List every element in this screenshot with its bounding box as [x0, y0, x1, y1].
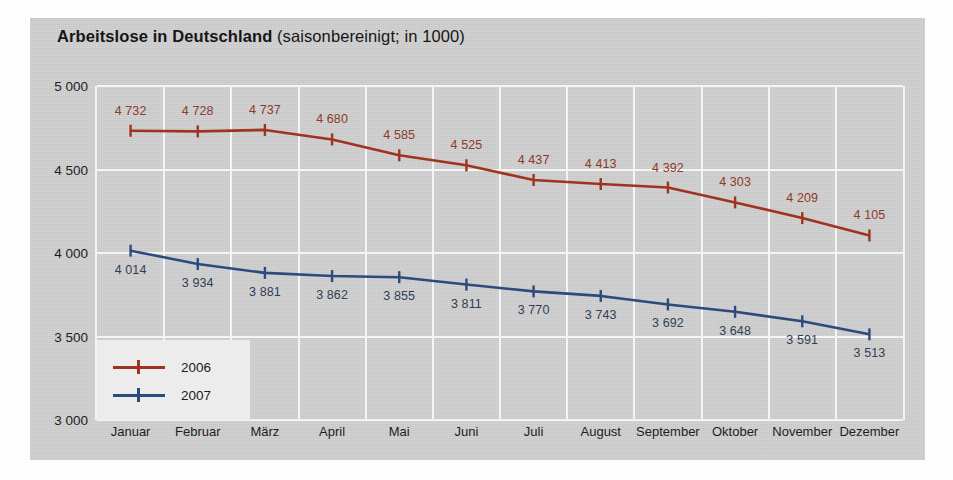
y-axis-tick-label: 5 000	[54, 79, 88, 94]
data-value-label: 4 680	[316, 112, 348, 126]
data-value-label: 3 855	[383, 289, 415, 303]
data-value-label: 4 105	[854, 208, 886, 222]
x-axis-tick-label: Mai	[389, 424, 410, 439]
legend-line-marker-icon	[113, 388, 165, 402]
data-value-label: 3 862	[316, 288, 348, 302]
data-value-label: 4 728	[182, 104, 214, 118]
data-value-label: 3 881	[249, 285, 281, 299]
chart-legend: 20062007	[97, 340, 250, 420]
x-axis-tick-label: November	[772, 424, 832, 439]
x-axis-tick-label: Februar	[175, 424, 221, 439]
data-value-label: 3 591	[786, 333, 818, 347]
data-value-label: 3 770	[518, 303, 550, 317]
data-value-label: 4 585	[383, 128, 415, 142]
data-value-label: 4 737	[249, 103, 281, 117]
data-value-label: 3 648	[719, 324, 751, 338]
data-value-label: 3 743	[585, 308, 617, 322]
x-axis-tick-label: April	[319, 424, 345, 439]
series-line-2007	[131, 251, 870, 335]
y-axis-tick-label: 4 500	[54, 162, 88, 177]
data-value-label: 4 303	[719, 175, 751, 189]
y-axis-tick-label: 3 500	[54, 329, 88, 344]
legend-item-2006[interactable]: 2006	[113, 358, 211, 376]
y-axis-labels: 3 0003 5004 0004 5005 000	[30, 86, 88, 420]
x-axis-tick-label: Dezember	[839, 424, 899, 439]
data-value-label: 4 525	[451, 138, 483, 152]
data-value-label: 4 392	[652, 161, 684, 175]
chart-title-bold: Arbeitslose in Deutschland	[57, 27, 272, 45]
y-axis-tick-label: 4 000	[54, 246, 88, 261]
x-axis-tick-label: Juli	[524, 424, 544, 439]
x-axis-tick-label: Oktober	[712, 424, 758, 439]
axis-right	[903, 86, 905, 420]
legend-line-marker-icon	[113, 360, 165, 374]
legend-label: 2006	[181, 360, 211, 375]
legend-item-2007[interactable]: 2007	[113, 386, 211, 404]
data-value-label: 4 014	[115, 263, 147, 277]
data-value-label: 3 811	[451, 297, 482, 311]
data-value-label: 3 934	[182, 276, 214, 290]
chart-title-subtitle: (saisonbereinigt; in 1000)	[277, 27, 465, 45]
x-axis-tick-label: März	[250, 424, 279, 439]
data-value-label: 4 209	[786, 191, 818, 205]
data-value-label: 4 437	[518, 153, 550, 167]
x-axis-labels: JanuarFebruarMärzAprilMaiJuniJuliAugustS…	[97, 424, 903, 448]
data-value-label: 3 513	[854, 346, 886, 360]
x-axis-tick-label: Juni	[454, 424, 478, 439]
series-line-2006	[131, 130, 870, 236]
x-axis-tick-label: August	[581, 424, 621, 439]
x-axis-tick-label: Januar	[111, 424, 151, 439]
data-value-label: 3 692	[652, 316, 684, 330]
legend-label: 2007	[181, 388, 211, 403]
x-axis-tick-label: September	[636, 424, 700, 439]
chart-title: Arbeitslose in Deutschland (saisonberein…	[57, 27, 465, 46]
data-value-label: 4 732	[115, 104, 147, 118]
data-value-label: 4 413	[585, 157, 617, 171]
y-axis-tick-label: 3 000	[54, 413, 88, 428]
chart-screenshot: Arbeitslose in Deutschland (saisonberein…	[0, 0, 953, 480]
